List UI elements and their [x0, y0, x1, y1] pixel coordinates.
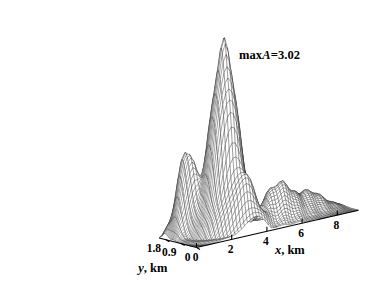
equals-sign: = [271, 48, 278, 62]
y-tick-label: 0.9 [162, 246, 177, 258]
amplitude-symbol: A [262, 48, 270, 62]
max-label: max [239, 48, 262, 62]
y-tick-label: 0 [185, 251, 191, 263]
x-tick-label: 8 [333, 219, 339, 231]
x-tick-label: 2 [228, 243, 234, 255]
max-amplitude-annotation: maxA=3.02 [239, 48, 300, 63]
y-tick-label: 1.8 [147, 242, 162, 254]
y-axis-title: y, km [136, 261, 168, 275]
x-axis-title: x, km [274, 243, 305, 257]
surface-plot-figure: 0246800.91.8 x, km y, km maxA=3.02 [0, 0, 374, 281]
surface-plot-canvas: 0246800.91.8 x, km y, km [0, 0, 374, 281]
wireframe-mesh [159, 38, 358, 248]
max-amplitude-value: 3.02 [278, 48, 300, 62]
x-tick-label: 6 [298, 227, 304, 239]
x-tick-label: 4 [263, 235, 269, 247]
x-tick-label: 0 [193, 251, 199, 263]
y-axis-tick [197, 248, 201, 250]
